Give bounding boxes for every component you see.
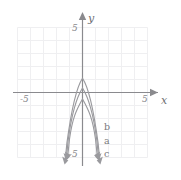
x-tick-label-negative-5: -5 — [20, 95, 29, 104]
graph-svg — [0, 0, 181, 180]
x-tick-label-5: 5 — [142, 95, 148, 104]
curve-label-a: a — [104, 136, 110, 146]
curve-label-c: c — [104, 149, 109, 159]
y-tick-label-5: 5 — [72, 24, 78, 33]
y-tick-label-negative-5: -5 — [69, 150, 78, 159]
graph-figure: -5 5 5 -5 y x b a c — [0, 0, 181, 180]
x-axis-label: x — [161, 95, 167, 106]
axes — [13, 14, 158, 166]
y-axis-arrowhead — [79, 12, 86, 20]
x-axis-arrowhead — [150, 89, 158, 96]
curve-label-b: b — [104, 122, 110, 132]
y-axis-label: y — [88, 13, 94, 24]
